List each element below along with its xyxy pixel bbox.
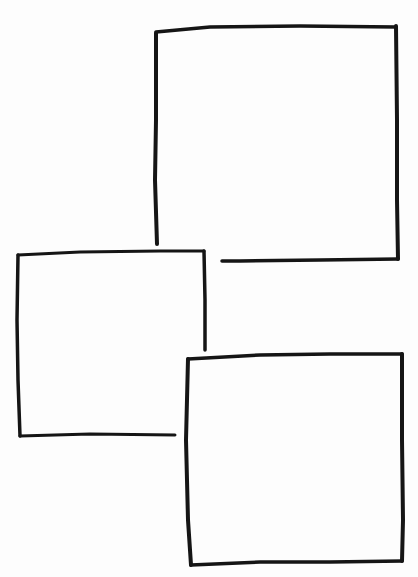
sketch-page: ~~ ~ ~~~ ~~~~ ~~~ bbox=[0, 0, 418, 577]
frame-top-right bbox=[155, 26, 398, 261]
frame-bottom-right bbox=[186, 354, 403, 565]
frame-middle-left bbox=[17, 251, 205, 436]
frames-canvas bbox=[0, 0, 418, 577]
